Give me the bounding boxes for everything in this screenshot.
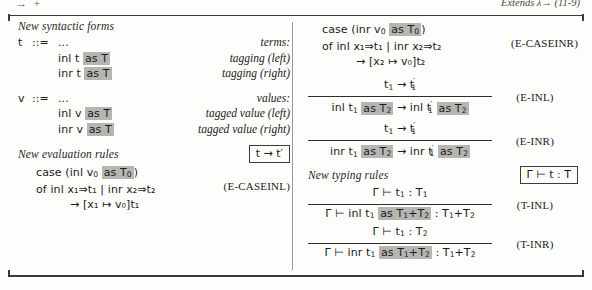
rule-name-t-inr: (T-INR) (492, 238, 578, 250)
running-head-left: → + (16, 0, 42, 9)
rule-name-e-inl: (E-INL) (492, 91, 578, 103)
values-defeq: ::= (32, 92, 58, 107)
rule-e-caseinl-body: case (inl v0 as T0) of inl x₁⇒t₁ | inr x… (36, 165, 156, 212)
rule-e-caseinr-line2: of inl x₁⇒t₁ | inr x₂⇒t₂ (322, 39, 442, 54)
terms-grammar-row-head: t ::= ... terms: (18, 35, 290, 51)
rule-e-caseinl-line3: → [x₁ ↦ v₀]t₁ (36, 197, 156, 212)
rule-t-inr-conclusion: Γ ⊢ inr t1 as T1+T2 : T1+T2 (321, 244, 480, 262)
values-grammar-row-head: v ::= ... values: (18, 91, 290, 107)
as-type-highlight: as T0 (102, 166, 134, 179)
values-inr-expr: inr v as T (58, 123, 114, 138)
rule-e-inr-premise: t1 → t′1 (380, 120, 420, 140)
values-inl-label: tagged value (left) (206, 106, 290, 121)
evaluation-relation-box: t → t′ (249, 145, 290, 163)
rule-e-inl-conclusion: inl t1 as T2 → inl t′1 as T2 (327, 97, 472, 118)
rule-e-caseinr-line1: case (inr v0 as T0) (322, 22, 442, 39)
terms-grammar-row-inl: inl t as T tagging (left) (18, 51, 290, 67)
values-first-rhs: ... (58, 92, 69, 107)
spacer (308, 69, 578, 74)
terms-inl-expr: inl t as T (58, 52, 110, 67)
values-grammar-row-inl: inl v as T tagged value (left) (18, 106, 290, 122)
as-type-highlight: as T (83, 52, 110, 65)
as-type-highlight: as T2 (437, 102, 469, 115)
rule-e-inr: t1 → t′1 inr t1 as T2 → inr t′1 as T2 (E… (308, 120, 578, 162)
column-divider (292, 22, 293, 270)
values-inr-label: tagged value (right) (198, 122, 290, 137)
as-type-highlight: as T2 (438, 145, 470, 158)
terms-grammar: t ::= ... terms: inl t as T tagging (lef… (18, 35, 290, 82)
new-evaluation-rules-header: New evaluation rules t → t′ (18, 145, 290, 163)
rule-e-inl: t1 → t′1 inl t1 as T2 → inl t′1 as T2 (E… (308, 76, 578, 118)
terms-first-rhs: ... (58, 36, 69, 51)
rule-t-inl-premise: Γ ⊢ t1 : T1 (368, 186, 431, 203)
figure-columns: New syntactic forms t ::= ... terms: inl… (8, 16, 584, 274)
rule-e-caseinl-line1: case (inl v0 as T0) (36, 165, 156, 182)
new-typing-rules-header: New typing rules Γ ⊢ t : T (308, 166, 578, 184)
as-type-highlight: as T1+T2 (379, 246, 432, 259)
rule-e-caseinr-line3: → [x₂ ↦ v₀]t₂ (322, 54, 442, 69)
as-type-highlight: as T2 (361, 102, 393, 115)
terms-inr-expr: inr t as T (58, 67, 112, 82)
rule-t-inl-fraction: Γ ⊢ t1 : T1 Γ ⊢ inl t1 as T1+T2 : T1+T2 (308, 186, 492, 223)
rule-name-e-caseinr: (E-CASEINR) (511, 37, 578, 49)
as-type-highlight: as T0 (389, 23, 421, 36)
rule-e-inr-conclusion: inr t1 as T2 → inr t′1 as T2 (326, 141, 474, 162)
terms-lhs: t (18, 36, 32, 51)
as-type-highlight: as T (84, 67, 111, 80)
terms-grammar-row-inr: inr t as T tagging (right) (18, 66, 290, 82)
rule-name-e-inr: (E-INR) (492, 135, 578, 147)
as-type-highlight: as T1+T2 (378, 207, 431, 220)
running-head-right: Extends λ→ (11-9) (501, 0, 580, 8)
as-type-highlight: as T2 (361, 145, 393, 158)
values-lhs: v (18, 92, 32, 107)
new-syntactic-forms-heading: New syntactic forms (18, 20, 290, 32)
rule-e-inl-premise: t1 → t′1 (380, 76, 420, 96)
terms-inr-label: tagging (right) (222, 66, 290, 81)
figure-frame: New syntactic forms t ::= ... terms: inl… (8, 15, 584, 274)
values-grammar-row-inr: inr v as T tagged value (right) (18, 122, 290, 138)
rule-t-inl: Γ ⊢ t1 : T1 Γ ⊢ inl t1 as T1+T2 : T1+T2 … (308, 186, 578, 223)
left-column: New syntactic forms t ::= ... terms: inl… (18, 20, 290, 212)
rule-e-caseinr: case (inr v0 as T0) of inl x₁⇒t₁ | inr x… (308, 22, 578, 69)
rule-e-inl-fraction: t1 → t′1 inl t1 as T2 → inl t′1 as T2 (308, 76, 492, 118)
values-inl-expr: inl v as T (58, 107, 112, 122)
new-typing-rules-heading: New typing rules (308, 169, 388, 181)
running-head: → + Extends λ→ (11-9) (0, 0, 592, 12)
rule-e-caseinl-line2: of inl x₁⇒t₁ | inr x₂⇒t₂ (36, 182, 156, 197)
rule-e-caseinr-body: case (inr v0 as T0) of inl x₁⇒t₁ | inr x… (322, 22, 442, 69)
rule-t-inr-fraction: Γ ⊢ t1 : T2 Γ ⊢ inr t1 as T1+T2 : T1+T2 (308, 225, 492, 262)
values-grammar: v ::= ... values: inl v as T tagged valu… (18, 91, 290, 138)
new-evaluation-rules-heading: New evaluation rules (18, 148, 119, 160)
rule-e-caseinl: case (inl v0 as T0) of inl x₁⇒t₁ | inr x… (18, 165, 290, 212)
rule-t-inr-premise: Γ ⊢ t1 : T2 (368, 225, 431, 242)
rule-e-inr-fraction: t1 → t′1 inr t1 as T2 → inr t′1 as T2 (308, 120, 492, 162)
as-type-highlight: as T (87, 123, 114, 136)
right-column: case (inr v0 as T0) of inl x₁⇒t₁ | inr x… (308, 20, 578, 262)
rule-name-e-caseinl: (E-CASEINL) (224, 180, 290, 192)
rule-t-inl-conclusion: Γ ⊢ inl t1 as T1+T2 : T1+T2 (321, 205, 479, 223)
typing-relation-box: Γ ⊢ t : T (520, 166, 578, 184)
as-type-highlight: as T (85, 107, 112, 120)
terms-category-label: terms: (261, 35, 290, 50)
figure-bottom-rule (8, 275, 584, 277)
terms-defeq: ::= (32, 36, 58, 51)
rule-t-inr: Γ ⊢ t1 : T2 Γ ⊢ inr t1 as T1+T2 : T1+T2 … (308, 225, 578, 262)
terms-inl-label: tagging (left) (230, 51, 290, 66)
rule-name-t-inl: (T-INL) (492, 199, 578, 211)
spacer (18, 137, 290, 145)
spacer (18, 82, 290, 90)
values-category-label: values: (257, 91, 290, 106)
